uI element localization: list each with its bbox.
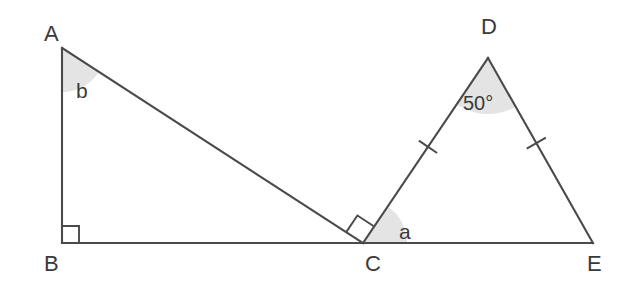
vertex-labels: A B C D E <box>44 14 602 276</box>
angle-label-a: a <box>399 220 411 243</box>
segment-de <box>488 58 593 243</box>
geometry-diagram: A B C D E b a 50° <box>0 0 624 291</box>
vertex-label-e: E <box>587 251 602 276</box>
right-angle-marker-c <box>346 216 374 233</box>
geometry-figure: A B C D E b a 50° <box>0 0 624 291</box>
figure-segments <box>62 48 593 243</box>
tick-mark-cd <box>419 141 437 153</box>
segment-ac <box>62 48 363 243</box>
vertex-label-d: D <box>481 14 497 39</box>
tick-mark-de <box>527 138 546 149</box>
congruence-tick-marks <box>419 138 546 153</box>
angle-labels: b a 50° <box>76 79 493 243</box>
vertex-label-a: A <box>44 21 59 46</box>
vertex-label-c: C <box>365 251 381 276</box>
segment-cd <box>363 58 488 243</box>
right-angle-marker-b <box>62 226 79 243</box>
angle-label-b: b <box>76 79 88 102</box>
angle-label-d: 50° <box>463 92 493 114</box>
vertex-label-b: B <box>44 251 59 276</box>
angle-sectors <box>62 48 516 243</box>
